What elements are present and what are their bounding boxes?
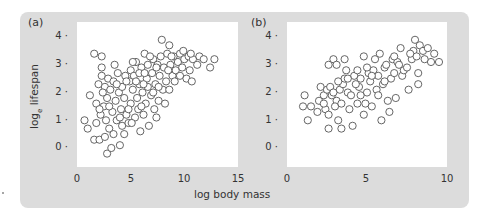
a-xtick-5: 5 — [119, 173, 143, 184]
data-point — [403, 64, 410, 71]
data-point — [123, 78, 130, 85]
data-point — [397, 45, 404, 52]
data-point — [391, 53, 398, 60]
data-point — [211, 56, 218, 63]
b-ytick-4: 4 · — [262, 30, 278, 41]
y-axis-title: loge lifespan — [28, 42, 43, 152]
data-point — [146, 53, 153, 60]
data-point — [378, 117, 385, 124]
y-axis-title-rest: lifespan — [28, 64, 40, 109]
data-point — [304, 117, 311, 124]
data-point — [314, 108, 321, 115]
data-point — [153, 114, 160, 121]
data-point — [368, 103, 375, 110]
data-point — [112, 97, 119, 104]
data-point — [156, 72, 163, 79]
data-point — [360, 53, 367, 60]
data-point — [110, 131, 117, 138]
data-point — [141, 70, 148, 77]
data-point — [421, 56, 428, 63]
data-point — [335, 117, 342, 124]
data-point — [333, 61, 340, 68]
data-point — [343, 67, 350, 74]
data-point — [352, 81, 359, 88]
scatter-plot-a — [77, 22, 238, 167]
data-point — [307, 103, 314, 110]
panel-a-label: (a) — [28, 16, 43, 29]
data-point — [161, 100, 168, 107]
data-point — [415, 70, 422, 77]
data-point — [384, 97, 391, 104]
data-point — [347, 92, 354, 99]
y-axis-title-subscript: e — [36, 109, 44, 113]
data-point — [354, 67, 361, 74]
data-point — [383, 61, 390, 68]
data-point — [102, 117, 109, 124]
data-point — [81, 117, 88, 124]
data-point — [86, 92, 93, 99]
data-point — [171, 78, 178, 85]
data-point — [125, 106, 132, 113]
data-point — [354, 100, 361, 107]
data-point — [106, 103, 113, 110]
data-point — [338, 125, 345, 132]
data-point — [107, 86, 114, 93]
data-point — [357, 92, 364, 99]
data-point — [207, 64, 214, 71]
data-point — [134, 94, 141, 101]
data-point — [113, 81, 120, 88]
data-point — [132, 78, 139, 85]
b-ytick-3: 3 · — [262, 58, 278, 69]
data-point — [138, 103, 145, 110]
data-point — [375, 92, 382, 99]
data-point — [376, 50, 383, 57]
data-point — [338, 100, 345, 107]
figure-panel: (a) loge lifespan 4 · 3 · 2 · 1 · 0 · 0 … — [20, 12, 469, 208]
data-point — [121, 94, 128, 101]
data-point — [186, 67, 193, 74]
data-point — [325, 125, 332, 132]
data-point — [139, 89, 146, 96]
data-point — [98, 53, 105, 60]
data-point — [363, 64, 370, 71]
data-point — [165, 67, 172, 74]
data-point — [155, 83, 162, 90]
a-xtick-10: 10 — [172, 173, 196, 184]
data-point — [330, 89, 337, 96]
data-point — [335, 78, 342, 85]
b-xtick-10: 10 — [435, 173, 459, 184]
data-point — [168, 53, 175, 60]
a-ytick-3: 3 · — [52, 58, 68, 69]
data-point — [368, 72, 375, 79]
data-point — [424, 45, 431, 52]
data-point — [392, 94, 399, 101]
data-point — [386, 108, 393, 115]
data-point — [163, 78, 170, 85]
data-point — [179, 64, 186, 71]
data-point — [98, 64, 105, 71]
data-point — [108, 144, 115, 151]
data-point — [188, 78, 195, 85]
data-point — [145, 122, 152, 129]
data-point — [111, 61, 118, 68]
data-point — [140, 81, 147, 88]
b-ytick-0: 0 · — [262, 141, 278, 152]
data-point — [117, 106, 124, 113]
data-point — [415, 81, 422, 88]
data-point — [158, 36, 165, 43]
data-point — [137, 128, 144, 135]
data-point — [391, 70, 398, 77]
x-axis-title: log body mass — [194, 188, 270, 200]
data-point — [84, 125, 91, 132]
data-point — [325, 111, 332, 118]
a-xtick-0: 0 — [65, 173, 89, 184]
data-point — [299, 103, 306, 110]
y-axis-title-log: log — [28, 113, 40, 129]
data-point — [128, 119, 135, 126]
data-point — [194, 61, 201, 68]
data-point — [381, 78, 388, 85]
data-point — [435, 58, 442, 65]
data-point — [101, 133, 108, 140]
data-point — [301, 92, 308, 99]
data-point — [166, 42, 173, 49]
